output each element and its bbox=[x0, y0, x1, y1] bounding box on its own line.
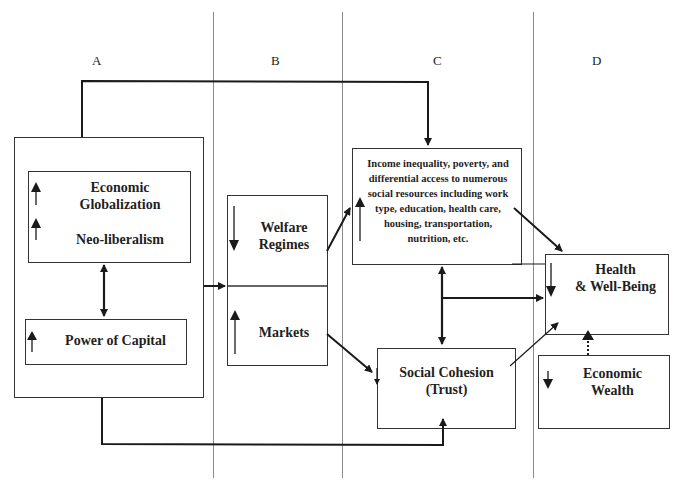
neo-liberalism-label: Neo-liberalism bbox=[50, 232, 190, 249]
welfare-regimes-line2: Regimes bbox=[240, 237, 328, 254]
economic-globalization-line2: Globalization bbox=[50, 197, 190, 214]
arrow-markets-to-social-cohesion bbox=[327, 334, 372, 372]
income-inequality-line: housing, transportation, bbox=[354, 216, 522, 231]
income-inequality-line: type, education, health care, bbox=[354, 201, 522, 216]
income-inequality-line: nutrition, etc. bbox=[354, 231, 522, 246]
income-inequality-line: social resources including work bbox=[354, 186, 522, 201]
column-label-a: A bbox=[92, 53, 101, 69]
welfare-regimes-label: Welfare Regimes bbox=[240, 220, 328, 254]
column-separator-ab bbox=[213, 12, 214, 478]
health-line1: Health bbox=[562, 262, 669, 279]
health-well-being-label: Health & Well-Being bbox=[562, 262, 669, 296]
social-cohesion-line1: Social Cohesion bbox=[377, 365, 516, 382]
column-label-d: D bbox=[592, 53, 601, 69]
economic-wealth-line1: Economic bbox=[555, 366, 670, 383]
social-cohesion-line2: (Trust) bbox=[377, 382, 516, 399]
income-inequality-label: Income inequality, poverty, and differen… bbox=[354, 156, 522, 246]
health-line2: & Well-Being bbox=[562, 279, 669, 296]
arrow-a-to-income-top bbox=[82, 81, 428, 145]
economic-globalization-line1: Economic bbox=[50, 180, 190, 197]
column-label-c: C bbox=[433, 53, 442, 69]
social-cohesion-label: Social Cohesion (Trust) bbox=[377, 365, 516, 399]
column-separator-cd bbox=[533, 12, 534, 478]
markets-label: Markets bbox=[240, 325, 328, 342]
welfare-regimes-line1: Welfare bbox=[240, 220, 328, 237]
economic-globalization-label: Economic Globalization bbox=[50, 180, 190, 214]
income-inequality-line: differential access to numerous bbox=[354, 171, 522, 186]
cropped-title bbox=[0, 0, 688, 6]
power-of-capital-label: Power of Capital bbox=[48, 333, 183, 350]
income-inequality-line: Income inequality, poverty, and bbox=[354, 156, 522, 171]
economic-wealth-line2: Wealth bbox=[555, 383, 670, 400]
column-separator-bc bbox=[342, 12, 343, 478]
economic-wealth-label: Economic Wealth bbox=[555, 366, 670, 400]
column-label-b: B bbox=[271, 53, 280, 69]
arrow-welfare-to-income bbox=[327, 208, 350, 251]
